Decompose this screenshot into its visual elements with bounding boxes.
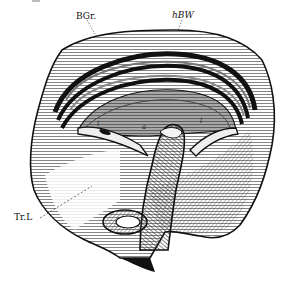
anatomical-illustration: BGr. hBW Tr.L l a l	[0, 0, 288, 292]
engraving-drawing	[0, 0, 288, 292]
label-inner-l-left: l	[97, 121, 99, 128]
label-inner-l-right: l	[200, 118, 202, 125]
label-trl: Tr.L	[14, 213, 32, 222]
corner-mark	[32, 0, 40, 2]
label-inner-a: a	[142, 124, 146, 131]
label-bgr: BGr.	[76, 12, 96, 21]
label-hbw: hBW	[172, 11, 194, 20]
